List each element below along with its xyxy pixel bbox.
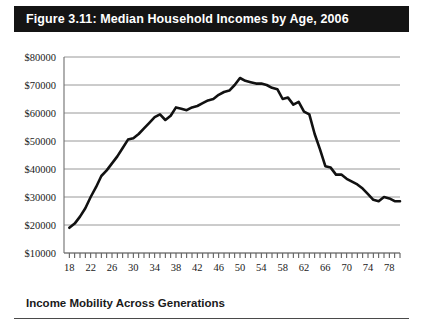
figure-title-bar: Figure 3.11: Median Household Incomes by… xyxy=(14,6,409,32)
svg-text:$60000: $60000 xyxy=(25,108,57,119)
svg-text:70: 70 xyxy=(341,262,352,273)
svg-text:30: 30 xyxy=(128,262,139,273)
svg-text:$30000: $30000 xyxy=(25,192,57,203)
svg-text:78: 78 xyxy=(384,262,395,273)
svg-text:42: 42 xyxy=(192,262,203,273)
bottom-divider xyxy=(14,318,409,319)
x-axis-labels: 18222630343842465054586266707478 xyxy=(64,262,395,273)
svg-text:50: 50 xyxy=(235,262,246,273)
svg-text:62: 62 xyxy=(299,262,310,273)
figure-container: Figure 3.11: Median Household Incomes by… xyxy=(0,0,423,327)
svg-text:34: 34 xyxy=(149,262,160,273)
figure-title: Figure 3.11: Median Household Incomes by… xyxy=(14,12,349,26)
line-chart: $80000$70000$60000$50000$40000$30000$200… xyxy=(0,38,423,288)
svg-text:74: 74 xyxy=(363,262,374,273)
x-axis-tick-marks xyxy=(69,253,400,258)
svg-text:$70000: $70000 xyxy=(25,80,57,91)
svg-text:26: 26 xyxy=(107,262,118,273)
chart-plot-area: $80000$70000$60000$50000$40000$30000$200… xyxy=(0,38,423,288)
svg-text:$40000: $40000 xyxy=(25,164,57,175)
svg-text:$80000: $80000 xyxy=(25,52,57,63)
y-axis-labels: $80000$70000$60000$50000$40000$30000$200… xyxy=(25,52,57,259)
svg-text:54: 54 xyxy=(256,262,267,273)
svg-text:38: 38 xyxy=(171,262,182,273)
svg-text:46: 46 xyxy=(213,262,224,273)
svg-text:66: 66 xyxy=(320,262,331,273)
figure-caption: Income Mobility Across Generations xyxy=(26,297,225,309)
svg-text:$20000: $20000 xyxy=(25,220,57,231)
svg-text:18: 18 xyxy=(64,262,75,273)
svg-text:22: 22 xyxy=(85,262,96,273)
svg-text:$10000: $10000 xyxy=(25,248,57,259)
income-data-line xyxy=(69,78,400,228)
svg-text:$50000: $50000 xyxy=(25,136,57,147)
svg-text:58: 58 xyxy=(277,262,288,273)
